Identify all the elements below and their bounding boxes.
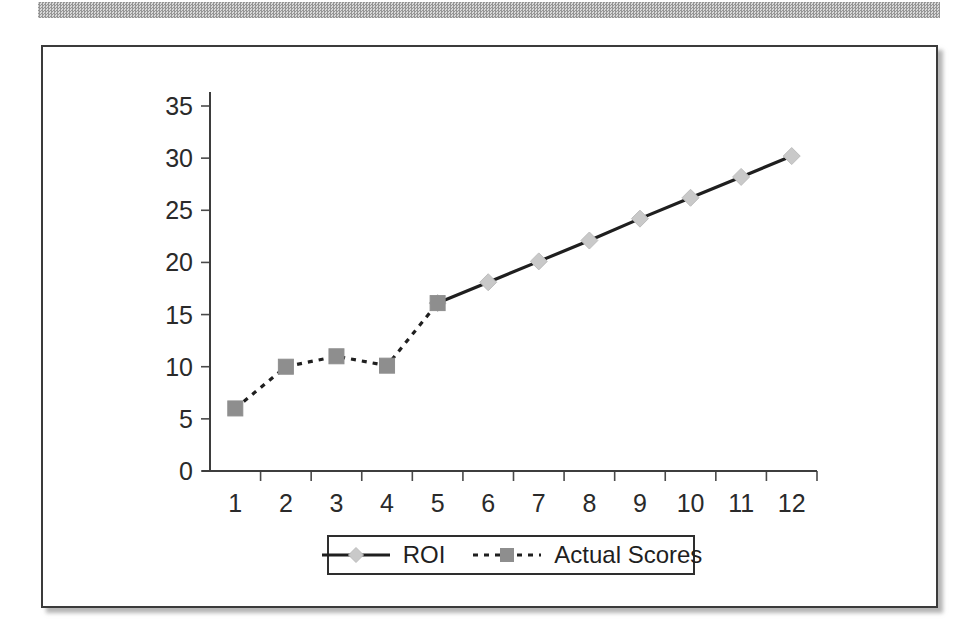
line-chart-plot: 05101520253035 123456789101112 — [43, 47, 936, 606]
y-axis-tick-label: 25 — [165, 196, 193, 224]
y-axis-tick-label: 5 — [179, 405, 193, 433]
y-axis-tick-label: 15 — [165, 301, 193, 329]
legend-entry-actual-scores: Actual Scores — [471, 541, 702, 569]
y-axis-tick-label: 35 — [165, 92, 193, 120]
x-axis-tick-label: 8 — [582, 489, 596, 517]
scanned-page-band — [38, 2, 940, 18]
roi-data-point — [530, 253, 547, 270]
x-axis-tick-group: 123456789101112 — [228, 471, 817, 517]
x-axis-tick-label: 7 — [532, 489, 546, 517]
x-axis-tick-label: 10 — [677, 489, 705, 517]
legend-label-actual-scores: Actual Scores — [554, 541, 702, 569]
x-axis-tick-label: 4 — [380, 489, 394, 517]
roi-data-point — [480, 274, 497, 291]
actual-scores-data-point — [329, 349, 344, 364]
roi-data-point — [581, 232, 598, 249]
roi-data-point — [783, 148, 800, 165]
x-axis-tick-label: 9 — [633, 489, 647, 517]
x-axis-tick-label: 2 — [279, 489, 293, 517]
y-axis-tick-label: 30 — [165, 144, 193, 172]
x-axis-tick-label: 11 — [728, 489, 754, 517]
actual-scores-data-point — [380, 358, 395, 373]
roi-data-point — [631, 210, 648, 227]
diamond-marker-icon — [320, 544, 392, 566]
roi-data-point — [682, 189, 699, 206]
actual-scores-marker-group — [228, 296, 445, 416]
roi-data-point — [733, 168, 750, 185]
square-marker-icon — [471, 544, 543, 566]
y-axis-tick-group: 05101520253035 — [165, 92, 210, 485]
y-axis-tick-label: 20 — [165, 248, 193, 276]
x-axis-tick-label: 5 — [431, 489, 445, 517]
x-axis-tick-label: 3 — [330, 489, 344, 517]
legend-label-roi: ROI — [403, 541, 446, 569]
actual-scores-data-point — [430, 296, 445, 311]
legend-entry-roi: ROI — [320, 541, 446, 569]
actual-scores-data-point — [228, 401, 243, 416]
x-axis-tick-label: 6 — [481, 489, 495, 517]
x-axis-tick-label: 12 — [778, 489, 806, 517]
x-axis-tick-label: 1 — [228, 489, 242, 517]
actual-scores-data-point — [278, 359, 293, 374]
chart-frame: 05101520253035 123456789101112 ROI Actua… — [41, 45, 938, 608]
chart-legend: ROI Actual Scores — [327, 535, 695, 575]
y-axis-tick-label: 0 — [179, 457, 193, 485]
y-axis-tick-label: 10 — [165, 353, 193, 381]
